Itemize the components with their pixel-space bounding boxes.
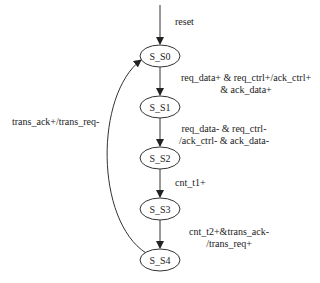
state-node-s4: S_S4 (140, 249, 180, 271)
reset-label: reset (175, 16, 194, 27)
edge-label-s3-s4-line2: /trans_req+ (206, 238, 252, 249)
edge-label-s1-s2-line1: req_data- & req_ctrl- (182, 123, 267, 134)
svg-text:S_S4: S_S4 (149, 255, 170, 266)
svg-text:S_S0: S_S0 (149, 51, 170, 62)
edge-label-s4-s0: trans_ack+/trans_req- (12, 116, 99, 127)
svg-text:S_S1: S_S1 (149, 102, 170, 113)
edge-label-s0-s1-line2: & ack_data+ (220, 84, 272, 95)
edge-label-s0-s1-line1: req_data+ & req_ctrl+/ack_ctrl+ (181, 72, 312, 83)
svg-text:S_S2: S_S2 (149, 153, 170, 164)
edge-label-s3-s4-line1: cnt_t2+&trans_ack- (189, 226, 269, 237)
svg-text:S_S3: S_S3 (149, 204, 170, 215)
state-diagram: reset S_S0 S_S1 S_S2 S_S3 S_S4 req_data+… (0, 0, 320, 283)
edge-label-s1-s2-line2: /ack_ctrl- & ack_data- (179, 135, 269, 146)
state-node-s2: S_S2 (140, 147, 180, 169)
state-node-s0: S_S0 (140, 45, 180, 67)
state-node-s1: S_S1 (140, 96, 180, 118)
edge-label-s2-s3: cnt_t1+ (175, 177, 206, 188)
state-node-s3: S_S3 (140, 198, 180, 220)
